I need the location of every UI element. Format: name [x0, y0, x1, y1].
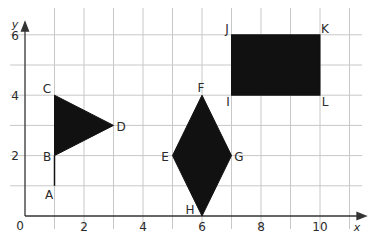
x-tick-4: 4 [139, 221, 147, 233]
rhombus-efgh [173, 95, 232, 216]
point-label-c: C [43, 83, 51, 95]
x-tick-10: 10 [312, 221, 327, 233]
point-label-l: L [322, 96, 329, 108]
x-tick-6: 6 [198, 221, 206, 233]
coordinate-grid-diagram: y x 0 2 4 6 8 10 2 4 6 A B C D E F G H I… [0, 0, 371, 242]
y-tick-2: 2 [11, 150, 19, 162]
point-label-a: A [45, 189, 53, 201]
point-label-f: F [198, 82, 205, 94]
point-label-k: K [321, 23, 329, 35]
x-tick-8: 8 [257, 221, 265, 233]
x-tick-2: 2 [80, 221, 88, 233]
point-label-g: G [234, 151, 243, 163]
point-label-d: D [116, 121, 125, 133]
point-label-b: B [43, 151, 51, 163]
point-label-j: J [225, 23, 229, 35]
y-tick-4: 4 [11, 90, 19, 102]
origin-label: 0 [16, 220, 24, 232]
y-tick-6: 6 [11, 30, 19, 42]
x-axis-arrow-icon [357, 213, 366, 220]
point-label-i: I [226, 96, 230, 108]
x-axis-label: x [354, 221, 361, 234]
rectangle-ijkl [232, 35, 321, 95]
point-label-h: H [185, 204, 194, 216]
point-label-e: E [161, 151, 169, 163]
y-axis-arrow-icon [22, 22, 29, 31]
